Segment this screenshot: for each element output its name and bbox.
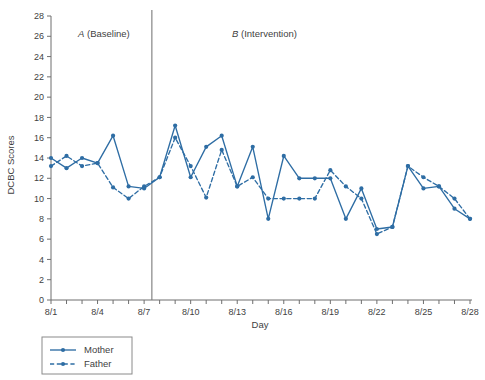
legend: MotherFather bbox=[42, 337, 132, 374]
x-tick-label: 8/1 bbox=[45, 307, 58, 317]
dcbc-scores-line-chart: 0246810121416182022242628 8/18/48/78/108… bbox=[0, 0, 485, 380]
y-tick-label: 22 bbox=[34, 72, 44, 82]
data-point bbox=[49, 164, 53, 168]
legend-label-mother: Mother bbox=[84, 344, 114, 355]
data-point bbox=[328, 168, 332, 172]
x-tick-label: 8/7 bbox=[138, 307, 151, 317]
y-tick-label: 24 bbox=[34, 52, 44, 62]
data-point bbox=[111, 185, 115, 189]
y-tick-label: 4 bbox=[39, 255, 44, 265]
plot-area: 0246810121416182022242628 8/18/48/78/108… bbox=[34, 10, 479, 317]
data-point bbox=[266, 217, 270, 221]
y-tick-label: 10 bbox=[34, 194, 44, 204]
data-point bbox=[189, 164, 193, 168]
data-series bbox=[49, 123, 472, 236]
data-point bbox=[173, 123, 177, 127]
data-point bbox=[204, 145, 208, 149]
data-point bbox=[452, 196, 456, 200]
data-point bbox=[344, 217, 348, 221]
data-point bbox=[344, 184, 348, 188]
data-point bbox=[452, 207, 456, 211]
y-tick-label: 2 bbox=[39, 275, 44, 285]
data-point bbox=[95, 161, 99, 165]
data-point bbox=[64, 154, 68, 158]
y-tick-label: 6 bbox=[39, 234, 44, 244]
y-tick-label: 14 bbox=[34, 153, 44, 163]
x-tick-label: 8/16 bbox=[275, 307, 293, 317]
data-point bbox=[313, 176, 317, 180]
data-point bbox=[421, 175, 425, 179]
y-tick-label: 12 bbox=[34, 173, 44, 183]
data-point bbox=[375, 232, 379, 236]
legend-marker-mother bbox=[61, 348, 65, 352]
data-point bbox=[282, 154, 286, 158]
data-point bbox=[126, 196, 130, 200]
data-point bbox=[251, 175, 255, 179]
data-point bbox=[359, 186, 363, 190]
legend-label-father: Father bbox=[84, 358, 111, 369]
data-point bbox=[437, 184, 441, 188]
data-point bbox=[282, 196, 286, 200]
y-tick-label: 16 bbox=[34, 133, 44, 143]
data-point bbox=[49, 156, 53, 160]
data-point bbox=[126, 184, 130, 188]
legend-marker-father bbox=[61, 362, 65, 366]
data-point bbox=[80, 156, 84, 160]
data-point bbox=[328, 176, 332, 180]
y-axis-ticks: 0246810121416182022242628 bbox=[34, 11, 51, 305]
data-point bbox=[421, 186, 425, 190]
data-point bbox=[359, 196, 363, 200]
x-tick-label: 8/13 bbox=[228, 307, 246, 317]
data-point bbox=[235, 184, 239, 188]
data-point bbox=[468, 217, 472, 221]
data-point bbox=[111, 134, 115, 138]
data-point bbox=[220, 134, 224, 138]
y-tick-label: 20 bbox=[34, 92, 44, 102]
x-tick-label: 8/22 bbox=[368, 307, 386, 317]
y-axis-label: DCBC Scores bbox=[5, 135, 16, 194]
chart-figure: 0246810121416182022242628 8/18/48/78/108… bbox=[0, 0, 485, 380]
data-point bbox=[251, 145, 255, 149]
x-axis-ticks: 8/18/48/78/108/138/168/198/228/258/28 bbox=[45, 300, 479, 317]
data-point bbox=[266, 196, 270, 200]
y-tick-label: 18 bbox=[34, 113, 44, 123]
data-point bbox=[313, 196, 317, 200]
data-point bbox=[158, 175, 162, 179]
y-tick-label: 26 bbox=[34, 31, 44, 41]
x-tick-label: 8/28 bbox=[461, 307, 479, 317]
x-tick-label: 8/25 bbox=[415, 307, 433, 317]
data-point bbox=[297, 196, 301, 200]
data-point bbox=[204, 195, 208, 199]
x-tick-label: 8/19 bbox=[322, 307, 340, 317]
data-point bbox=[173, 136, 177, 140]
phase-b-label: B (Intervention) bbox=[232, 28, 297, 39]
y-tick-label: 28 bbox=[34, 11, 44, 21]
y-tick-label: 8 bbox=[39, 214, 44, 224]
series-mother bbox=[49, 123, 472, 231]
x-tick-label: 8/4 bbox=[91, 307, 104, 317]
series-line-mother bbox=[51, 126, 470, 229]
data-point bbox=[406, 164, 410, 168]
x-tick-label: 8/10 bbox=[182, 307, 200, 317]
y-tick-label: 0 bbox=[39, 295, 44, 305]
x-axis-label: Day bbox=[252, 319, 269, 330]
data-point bbox=[142, 184, 146, 188]
data-point bbox=[80, 164, 84, 168]
data-point bbox=[297, 176, 301, 180]
data-point bbox=[220, 148, 224, 152]
axes bbox=[51, 16, 472, 300]
data-point bbox=[189, 175, 193, 179]
phase-a-label: A (Baseline) bbox=[77, 28, 130, 39]
data-point bbox=[64, 166, 68, 170]
data-point bbox=[390, 225, 394, 229]
